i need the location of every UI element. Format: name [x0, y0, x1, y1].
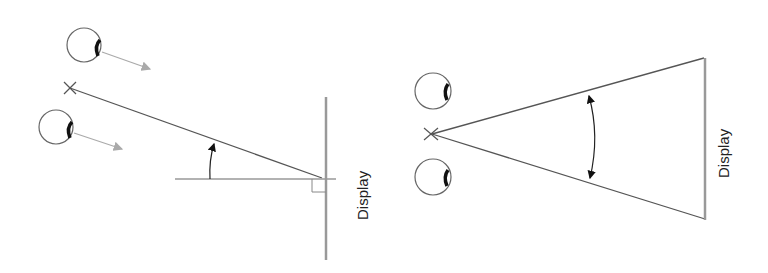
eye-icon — [67, 28, 101, 62]
gaze-arrow-lower — [74, 133, 122, 149]
right-angle-marker — [312, 179, 326, 192]
view-cone-lower — [432, 134, 705, 219]
eye-icon — [415, 159, 451, 195]
display-label-right: Display — [715, 129, 732, 178]
sight-line — [70, 88, 322, 178]
angle-arrow-icon — [210, 144, 214, 179]
eye-icon — [415, 73, 451, 109]
display-label-left: Display — [354, 171, 371, 220]
double-angle-arrow-icon — [589, 96, 595, 178]
right-diagram — [415, 58, 705, 220]
view-cone-upper — [432, 58, 704, 134]
gaze-arrow-upper — [102, 52, 150, 69]
left-diagram — [39, 28, 336, 260]
focal-point-x-icon — [424, 128, 438, 140]
eye-icon — [39, 110, 73, 144]
diagram-canvas — [0, 0, 768, 273]
